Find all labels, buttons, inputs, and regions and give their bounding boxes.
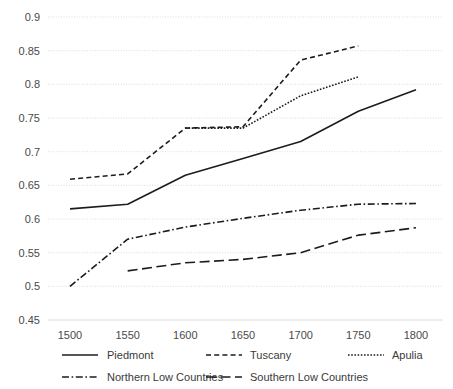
y-tick-label: 0.75 <box>19 112 40 124</box>
chart-legend: PiedmontTuscanyApuliaNorthern Low Countr… <box>62 349 423 383</box>
y-tick-label: 0.5 <box>25 280 40 292</box>
y-tick-label: 0.45 <box>19 314 40 326</box>
x-tick-label: 1800 <box>404 329 428 341</box>
y-tick-label: 0.8 <box>25 78 40 90</box>
x-tick-label: 1700 <box>288 329 312 341</box>
data-series-group <box>70 46 416 286</box>
x-tick-label: 1500 <box>58 329 82 341</box>
x-tick-label: 1550 <box>115 329 139 341</box>
gridlines-group <box>48 17 443 320</box>
chart-canvas: 0.90.850.80.750.70.650.60.550.50.45 1500… <box>0 0 453 389</box>
series-line-piedmont <box>70 90 416 209</box>
x-axis-tick-labels: 1500155016001650170017501800 <box>58 329 428 341</box>
series-line-northern-low-countries <box>70 204 416 287</box>
y-tick-label: 0.7 <box>25 146 40 158</box>
series-line-tuscany <box>70 46 358 179</box>
series-line-southern-low-countries <box>128 228 416 271</box>
y-tick-label: 0.55 <box>19 247 40 259</box>
line-chart: 0.90.850.80.750.70.650.60.550.50.45 1500… <box>0 0 453 389</box>
legend-label-piedmont: Piedmont <box>107 349 153 361</box>
legend-label-southern-low-countries: Southern Low Countries <box>250 371 369 383</box>
y-tick-label: 0.6 <box>25 213 40 225</box>
x-tick-label: 1600 <box>173 329 197 341</box>
x-tick-label: 1750 <box>346 329 370 341</box>
legend-label-apulia: Apulia <box>392 349 423 361</box>
y-tick-label: 0.65 <box>19 179 40 191</box>
y-tick-label: 0.9 <box>25 11 40 23</box>
x-tick-label: 1650 <box>231 329 255 341</box>
y-tick-label: 0.85 <box>19 45 40 57</box>
legend-label-tuscany: Tuscany <box>250 349 292 361</box>
y-axis-tick-labels: 0.90.850.80.750.70.650.60.550.50.45 <box>19 11 40 326</box>
